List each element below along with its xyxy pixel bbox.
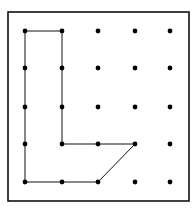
peg-dot [60,105,65,110]
peg-dot [168,142,173,147]
peg-dot [133,66,138,71]
peg-dot [96,66,101,71]
peg-dot [168,66,173,71]
peg-grid [23,29,173,185]
peg-dot [133,180,138,185]
peg-dot [60,180,65,185]
peg-dot [60,66,65,71]
peg-dot [168,180,173,185]
peg-dot [133,142,138,147]
peg-dot [133,105,138,110]
l-shaped-polygon [25,31,135,182]
peg-dot [23,180,28,185]
peg-dot [168,29,173,34]
peg-dot [23,105,28,110]
peg-dot [23,142,28,147]
peg-dot [133,29,138,34]
peg-dot [96,105,101,110]
peg-dot [60,142,65,147]
peg-dot [168,105,173,110]
peg-dot [23,66,28,71]
geoboard-diagram [0,0,195,211]
peg-dot [96,180,101,185]
peg-dot [60,29,65,34]
peg-dot [96,29,101,34]
peg-dot [96,142,101,147]
peg-dot [23,29,28,34]
